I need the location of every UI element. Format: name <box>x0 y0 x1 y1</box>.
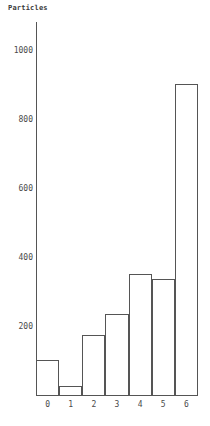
bar <box>82 335 105 395</box>
histogram-chart: Particles 2004006008001000 0123456 <box>0 0 210 426</box>
bar <box>129 274 152 395</box>
x-tick-label: 5 <box>161 400 166 409</box>
x-axis-line <box>36 395 198 396</box>
x-tick-label: 1 <box>68 400 73 409</box>
bar <box>105 314 128 395</box>
x-tick-label: 3 <box>115 400 120 409</box>
bar <box>175 84 198 395</box>
y-tick-label: 1000 <box>3 45 33 54</box>
chart-title: Particles <box>8 4 48 12</box>
x-tick-label: 6 <box>184 400 189 409</box>
x-tick-label: 4 <box>138 400 143 409</box>
bar <box>59 386 82 395</box>
x-tick-label: 0 <box>45 400 50 409</box>
x-tick-label: 2 <box>91 400 96 409</box>
y-tick-label: 800 <box>3 114 33 123</box>
y-tick-label: 200 <box>3 321 33 330</box>
y-tick-label: 600 <box>3 183 33 192</box>
bar <box>152 279 175 395</box>
y-axis-line <box>36 22 37 396</box>
y-tick-label: 400 <box>3 252 33 261</box>
bar <box>36 360 59 395</box>
